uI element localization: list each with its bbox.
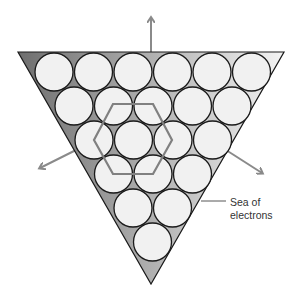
atom-circle [154,53,192,91]
label-line-2: electrons [230,209,273,221]
arrow-lower-right-icon [226,150,262,173]
atom-circle [174,155,212,193]
atom-circle [174,87,212,125]
metallic-bonding-diagram: Sea of electrons [0,0,294,300]
atom-circle [95,87,133,125]
atom-circle [55,87,93,125]
arrow-lower-left-icon [40,150,76,168]
atom-circle [233,53,271,91]
atom-circle [115,121,153,159]
label-line-1: Sea of [230,196,260,208]
atom-circle [213,87,251,125]
atom-circle [154,189,192,227]
atom-circle [114,53,152,91]
atom-circle [75,53,113,91]
atom-circle [194,121,232,159]
atom-circle [193,53,231,91]
atom-circle [114,189,152,227]
atom-circle [134,223,172,261]
sea-of-electrons-label: Sea of electrons [230,196,273,221]
atom-circle [35,53,73,91]
